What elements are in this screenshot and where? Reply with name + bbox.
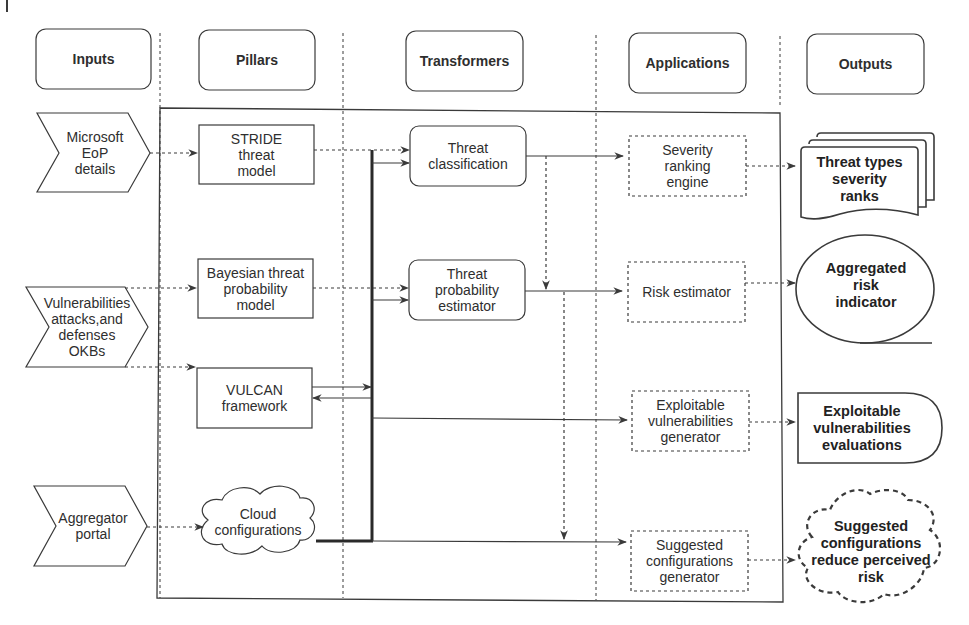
output-exploitable-evaluations-shape bbox=[798, 393, 942, 463]
app-risk-estimator-box bbox=[628, 262, 745, 322]
pillar-bayesian-box bbox=[198, 259, 313, 318]
bus-to-exploitable-generator bbox=[372, 418, 627, 420]
pillar-stride-box bbox=[199, 125, 314, 184]
architecture-diagram bbox=[0, 0, 969, 625]
transformer-threat-probability-box bbox=[409, 260, 525, 320]
transformers-header-box bbox=[406, 31, 523, 91]
pillar-cloud-shape bbox=[201, 486, 314, 554]
transformer-threat-classification-box bbox=[410, 126, 526, 186]
input-vulnerabilities-shape bbox=[26, 287, 148, 367]
pillars-header-box bbox=[199, 30, 315, 90]
input-microsoft-eop-shape bbox=[37, 113, 150, 192]
input-aggregator-shape bbox=[34, 486, 147, 566]
app-severity-ranking-box bbox=[629, 136, 746, 196]
app-exploitable-generator-box bbox=[632, 391, 749, 451]
inputs-header-box bbox=[36, 29, 151, 89]
output-suggested-configs-cloud bbox=[799, 490, 940, 602]
pillar-vulcan-box bbox=[197, 368, 312, 428]
bus-to-suggested-generator bbox=[372, 541, 626, 542]
outputs-header-box bbox=[807, 34, 924, 94]
output-aggregated-risk-ellipse bbox=[796, 235, 934, 343]
output-threat-types-document bbox=[801, 147, 918, 219]
applications-header-box bbox=[629, 33, 746, 93]
app-suggested-generator-box bbox=[631, 531, 748, 591]
